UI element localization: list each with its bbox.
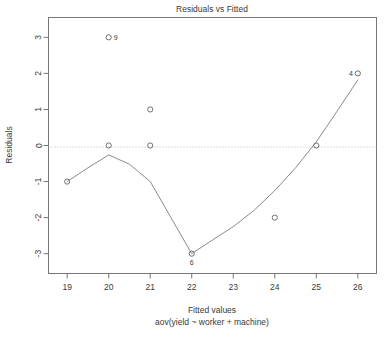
- y-tick-label: 3: [34, 35, 44, 40]
- data-point-label: 4: [349, 70, 353, 77]
- y-tick-label: -1: [34, 178, 44, 186]
- x-tick-label: 21: [145, 282, 155, 292]
- x-tick-label: 25: [312, 282, 322, 292]
- y-axis-label: Residuals: [4, 126, 14, 163]
- x-axis-label: Fitted values: [188, 305, 236, 315]
- chart-canvas: Residuals vs Fitted 1920212223242526 321…: [0, 0, 386, 339]
- y-tick-label: -3: [34, 250, 44, 258]
- x-tick-label: 19: [62, 282, 72, 292]
- y-tick-label: 2: [34, 71, 44, 76]
- x-tick-label: 26: [353, 282, 363, 292]
- chart-title: Residuals vs Fitted: [176, 4, 248, 14]
- x-tick-label: 24: [270, 282, 280, 292]
- residuals-vs-fitted-plot: Residuals vs Fitted 1920212223242526 321…: [0, 0, 386, 339]
- y-tick-label: -2: [34, 214, 44, 222]
- y-tick-label: 1: [34, 107, 44, 112]
- x-tick-label: 22: [187, 282, 197, 292]
- data-point-label: 6: [190, 259, 194, 266]
- x-tick-label: 20: [104, 282, 114, 292]
- data-point-label: 9: [114, 34, 118, 41]
- model-formula-label: aov(yield ~ worker + machine): [155, 317, 269, 327]
- y-tick-label: 0: [34, 143, 44, 148]
- x-tick-label: 23: [229, 282, 239, 292]
